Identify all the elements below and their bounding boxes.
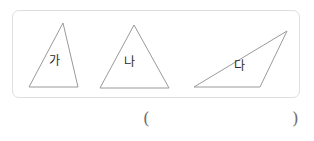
answer-open-paren: ( xyxy=(143,110,150,127)
answer-blank[interactable] xyxy=(152,110,290,128)
triangle-label-da: 다 xyxy=(234,60,245,72)
answer-close-paren: ) xyxy=(292,110,299,127)
triangle-label-ga: 가 xyxy=(49,55,60,67)
triangle-label-na: 나 xyxy=(124,56,135,68)
